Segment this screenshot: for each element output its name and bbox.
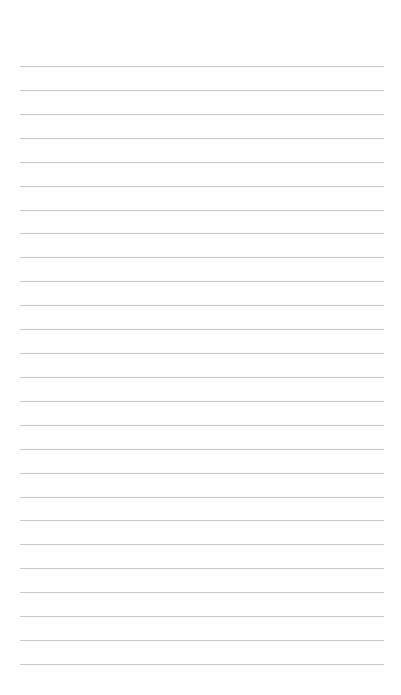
ruled-line — [20, 305, 384, 306]
ruled-line — [20, 592, 384, 593]
ruled-line — [20, 281, 384, 282]
ruled-line — [20, 353, 384, 354]
ruled-line — [20, 497, 384, 498]
ruled-line — [20, 186, 384, 187]
ruled-line — [20, 162, 384, 163]
ruled-line — [20, 114, 384, 115]
ruled-line — [20, 640, 384, 641]
ruled-line — [20, 449, 384, 450]
ruled-line — [20, 568, 384, 569]
ruled-line — [20, 210, 384, 211]
ruled-line — [20, 664, 384, 665]
ruled-line — [20, 520, 384, 521]
ruled-line — [20, 473, 384, 474]
ruled-line — [20, 138, 384, 139]
ruled-line — [20, 233, 384, 234]
ruled-line — [20, 66, 384, 67]
ruled-line — [20, 377, 384, 378]
ruled-line — [20, 544, 384, 545]
ruled-line — [20, 425, 384, 426]
ruled-line — [20, 401, 384, 402]
ruled-line — [20, 257, 384, 258]
ruled-line — [20, 329, 384, 330]
lined-paper-page — [0, 0, 401, 695]
ruled-line — [20, 616, 384, 617]
ruled-line — [20, 90, 384, 91]
